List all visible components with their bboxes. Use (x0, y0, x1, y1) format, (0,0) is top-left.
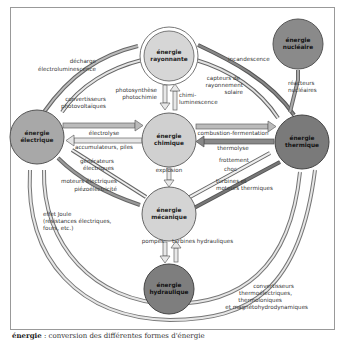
svg-text:choc: choc (224, 166, 237, 172)
caption-term: énergie (12, 331, 42, 340)
svg-text:thermique: thermique (285, 142, 319, 149)
svg-text:explosion: explosion (156, 167, 183, 174)
svg-text:capteurs de: capteurs de (207, 75, 241, 82)
caption-text: : conversion des différentes formes d'én… (42, 332, 205, 340)
svg-text:accumulateurs, piles: accumulateurs, piles (75, 144, 133, 151)
svg-text:solaire: solaire (225, 89, 244, 95)
svg-text:convertisseurs: convertisseurs (65, 96, 106, 102)
svg-text:combustion-fermentation: combustion-fermentation (197, 130, 269, 136)
svg-text:luminescence: luminescence (179, 99, 218, 105)
svg-text:et magnétohydrodynamiques: et magnétohydrodynamiques (225, 304, 308, 311)
svg-text:(résistances électriques,: (résistances électriques, (43, 218, 112, 225)
svg-text:photochimie: photochimie (122, 94, 157, 101)
svg-text:thermoioniques: thermoioniques (238, 297, 282, 304)
node-electrique: énergie électrique (10, 110, 64, 164)
svg-text:hydraulique: hydraulique (149, 289, 188, 296)
svg-text:chimique: chimique (154, 140, 184, 147)
svg-text:réacteurs: réacteurs (288, 80, 315, 86)
energy-conversion-diagram: énergie rayonnante énergie nucléaire éne… (0, 0, 338, 345)
svg-text:énergie: énergie (290, 135, 315, 142)
node-mecanique: énergie mécanique (142, 187, 196, 241)
svg-text:fours, etc.): fours, etc.) (43, 225, 73, 231)
svg-text:générateurs: générateurs (80, 158, 114, 165)
svg-text:énergie: énergie (157, 207, 182, 214)
figure-caption: énergie : conversion des différentes for… (12, 331, 205, 340)
svg-text:frottement: frottement (219, 157, 250, 163)
svg-text:convertisseurs: convertisseurs (253, 283, 294, 289)
svg-text:nucléaire: nucléaire (283, 44, 313, 50)
node-rayonnante: énergie rayonnante (140, 27, 198, 85)
svg-text:effet Joule: effet Joule (43, 211, 72, 218)
svg-text:thermolyse: thermolyse (217, 145, 249, 152)
node-chimique: énergie chimique (142, 113, 196, 167)
svg-text:moteurs électriques: moteurs électriques (61, 178, 117, 185)
svg-text:énergie: énergie (157, 133, 182, 140)
svg-text:piézoélectricité: piézoélectricité (74, 186, 117, 193)
svg-text:rayonnante: rayonnante (150, 56, 187, 63)
svg-text:nucléaires: nucléaires (288, 87, 317, 93)
svg-text:décharge: décharge (70, 58, 97, 65)
svg-text:turbines hydrauliques: turbines hydrauliques (172, 238, 233, 245)
svg-text:énergie: énergie (157, 282, 182, 289)
svg-text:moteurs thermiques: moteurs thermiques (216, 185, 273, 192)
svg-text:électrolyse: électrolyse (89, 130, 120, 137)
svg-text:pompes: pompes (142, 238, 164, 245)
svg-text:électroluminescence: électroluminescence (38, 66, 96, 72)
svg-text:thermoélectriques,: thermoélectriques, (239, 290, 292, 297)
svg-text:rayonnement: rayonnement (205, 82, 243, 89)
svg-text:énergie: énergie (286, 37, 311, 44)
node-thermique: énergie thermique (275, 115, 329, 169)
svg-text:énergie: énergie (157, 49, 182, 56)
svg-text:électriques: électriques (83, 165, 114, 172)
svg-text:énergie: énergie (25, 130, 50, 137)
svg-text:électrique: électrique (20, 137, 53, 144)
svg-text:photosynthèse: photosynthèse (116, 87, 158, 94)
node-hydraulique: énergie hydraulique (144, 264, 194, 314)
svg-text:mécanique: mécanique (151, 214, 187, 221)
svg-text:chimi-: chimi- (179, 92, 196, 98)
svg-text:photovoltaïques: photovoltaïques (61, 103, 106, 110)
node-nucleaire: énergie nucléaire (273, 19, 323, 69)
svg-text:turbines et: turbines et (216, 178, 247, 184)
svg-text:incandescence: incandescence (228, 56, 270, 62)
